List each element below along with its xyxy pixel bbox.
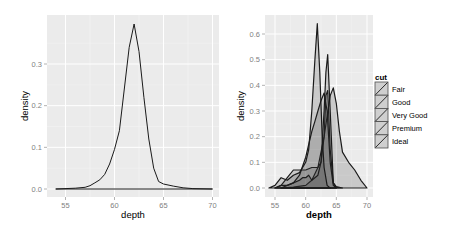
y-tick-label: 0.0: [32, 185, 42, 194]
legend-label: Very Good: [392, 111, 427, 120]
x-tick-label: 65: [159, 201, 167, 210]
y-tick-label: 0.5: [250, 55, 260, 64]
y-tick-label: 0.1: [32, 143, 42, 152]
x-tick-label: 65: [332, 201, 340, 210]
legend-title: cut: [375, 73, 387, 82]
right-panel: 0.00.10.20.30.40.50.6 55606570 depth den…: [235, 15, 427, 220]
y-tick-label: 0.4: [250, 81, 260, 90]
chart-figure: 0.00.10.20.3 55606570 depth density 0.00…: [0, 0, 452, 231]
legend-item-good: Good: [375, 95, 410, 108]
y-tick-label: 0.2: [32, 101, 42, 110]
legend-label: Ideal: [392, 137, 409, 146]
left-x-axis-title: depth: [121, 209, 145, 220]
y-tick-label: 0.2: [250, 132, 260, 141]
x-tick-label: 60: [110, 201, 118, 210]
y-tick-label: 0.1: [250, 158, 260, 167]
x-tick-label: 70: [208, 201, 216, 210]
legend-item-fair: Fair: [375, 82, 405, 95]
legend-label: Good: [392, 98, 410, 107]
y-tick-label: 0.0: [250, 184, 260, 193]
y-tick-label: 0.6: [250, 30, 260, 39]
legend-item-very-good: Very Good: [375, 108, 427, 121]
legend-label: Fair: [392, 85, 405, 94]
left-panel: 0.00.10.20.3 55606570 depth density: [19, 15, 219, 220]
right-y-axis: 0.00.10.20.30.40.50.6: [250, 30, 265, 193]
x-tick-label: 55: [61, 201, 69, 210]
legend: cut FairGoodVery GoodPremiumIdeal: [375, 73, 427, 148]
right-x-axis-title: depth: [306, 209, 332, 220]
left-y-axis: 0.00.10.20.3: [32, 60, 47, 194]
y-tick-label: 0.3: [32, 60, 42, 69]
legend-label: Premium: [392, 124, 422, 133]
x-tick-label: 70: [363, 201, 371, 210]
left-y-axis-title: density: [19, 91, 30, 121]
x-tick-label: 55: [271, 201, 279, 210]
legend-item-ideal: Ideal: [375, 135, 409, 148]
right-y-axis-title: density: [235, 91, 246, 121]
y-tick-label: 0.3: [250, 107, 260, 116]
legend-item-premium: Premium: [375, 122, 422, 135]
